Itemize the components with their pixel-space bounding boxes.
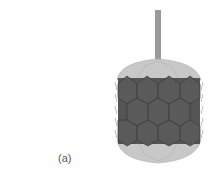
panel-label: (a) (58, 152, 71, 164)
tail (155, 10, 161, 62)
capsid-body (115, 76, 203, 146)
capsid-diagram (0, 0, 215, 187)
